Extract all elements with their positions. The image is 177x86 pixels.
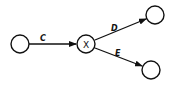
edge-e-label: E	[115, 49, 121, 58]
target-node-bottom	[142, 61, 160, 79]
flow-diagram: C D E X	[0, 0, 177, 86]
edge-d: D	[95, 19, 146, 40]
target-node-top	[146, 6, 164, 24]
edge-d-arrow	[95, 19, 146, 40]
junction-node: X	[77, 35, 95, 53]
edge-c-label: C	[40, 34, 46, 43]
junction-node-label: X	[83, 40, 89, 50]
edge-c: C	[29, 34, 76, 44]
source-node	[11, 35, 29, 53]
edge-d-label: D	[111, 24, 118, 33]
edge-e: E	[95, 48, 142, 66]
